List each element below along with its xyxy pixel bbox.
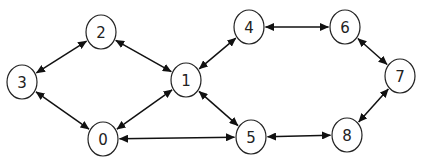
node-label: 4 <box>244 19 254 37</box>
edges-layer <box>36 27 388 139</box>
edge-7-8 <box>359 89 389 122</box>
node-label: 6 <box>340 19 350 37</box>
edge-3-0 <box>36 92 89 129</box>
edge-2-3 <box>36 41 86 73</box>
edge-1-5 <box>199 91 238 125</box>
node-3: 3 <box>7 65 37 99</box>
edge-6-7 <box>358 39 387 65</box>
node-label: 0 <box>98 131 108 149</box>
node-1: 1 <box>171 63 201 97</box>
node-label: 7 <box>395 68 405 86</box>
edge-0-5 <box>120 137 235 139</box>
edge-1-4 <box>199 38 236 69</box>
edge-2-1 <box>116 40 172 71</box>
node-4: 4 <box>234 10 264 44</box>
node-5: 5 <box>236 120 266 154</box>
node-7: 7 <box>385 59 415 93</box>
node-label: 1 <box>181 72 191 90</box>
node-label: 8 <box>342 127 352 145</box>
nodes-layer: 012345678 <box>7 10 415 156</box>
node-label: 5 <box>246 129 256 147</box>
node-label: 3 <box>17 74 27 92</box>
node-8: 8 <box>332 118 362 152</box>
edge-5-8 <box>268 135 331 136</box>
node-2: 2 <box>86 15 116 49</box>
node-0: 0 <box>88 122 118 156</box>
edge-0-1 <box>117 90 172 129</box>
node-6: 6 <box>330 10 360 44</box>
node-label: 2 <box>96 24 106 42</box>
graph-diagram: 012345678 <box>0 0 423 165</box>
